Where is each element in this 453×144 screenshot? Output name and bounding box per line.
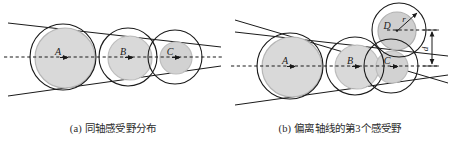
label-point-b: B <box>120 46 126 57</box>
label-point-a: A <box>281 55 289 66</box>
label-radius-r: r <box>402 14 406 24</box>
panel-b: A B C D r d (b) 偏离轴线的第3个感受野 <box>227 0 453 144</box>
caption-panel-b: (b) 偏离轴线的第3个感受野 <box>227 120 453 135</box>
label-point-c: C <box>167 46 174 57</box>
receptive-field-figure: A B C (a) 同轴感受野分布 <box>0 0 453 144</box>
label-point-b: B <box>347 55 353 66</box>
label-point-c: C <box>384 55 391 66</box>
label-point-a: A <box>54 46 62 57</box>
panel-a: A B C (a) 同轴感受野分布 <box>0 0 226 144</box>
caption-panel-a: (a) 同轴感受野分布 <box>0 120 226 135</box>
panel-b-diagram: A B C D r d <box>227 0 453 120</box>
label-distance-d: d <box>420 46 430 51</box>
label-point-d: D <box>382 20 391 31</box>
panel-a-diagram: A B C <box>0 0 226 120</box>
